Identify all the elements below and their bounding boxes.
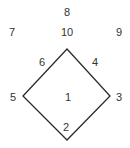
label-3: 3: [116, 91, 122, 103]
label-6: 6: [39, 56, 45, 68]
label-8: 8: [64, 6, 70, 18]
label-1: 1: [65, 91, 71, 103]
label-5: 5: [10, 91, 16, 103]
label-10: 10: [61, 26, 73, 38]
label-9: 9: [116, 26, 122, 38]
label-4: 4: [92, 56, 98, 68]
label-2: 2: [63, 121, 69, 133]
label-7: 7: [9, 26, 15, 38]
numbered-diamond-diagram: 8 7 10 9 6 4 5 1 3 2: [0, 0, 130, 148]
